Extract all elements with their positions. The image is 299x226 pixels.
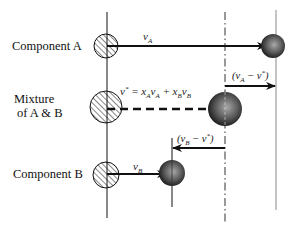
component-b-label: Component B: [13, 167, 83, 181]
mixture-initial-hatched-circle: [90, 91, 122, 123]
component-a-label: Component A: [12, 39, 82, 53]
mixture-label-line1: Mixture: [14, 92, 55, 106]
relative-velocity-a-label: (vA − v*): [232, 69, 269, 84]
relative-velocity-b-label: (vB − v*): [177, 132, 214, 147]
component-a-velocity-label: vA: [143, 30, 153, 45]
mixture-label-line2: of A & B: [17, 106, 63, 120]
mass-average-velocity-equation: v* = xAvA + xBvB: [120, 85, 192, 100]
diffusion-velocity-diagram: Component A vA (vA − v*) Mixture of A & …: [0, 0, 299, 226]
component-b-velocity-label: vB: [133, 160, 143, 175]
component-a-sphere: [261, 34, 285, 58]
